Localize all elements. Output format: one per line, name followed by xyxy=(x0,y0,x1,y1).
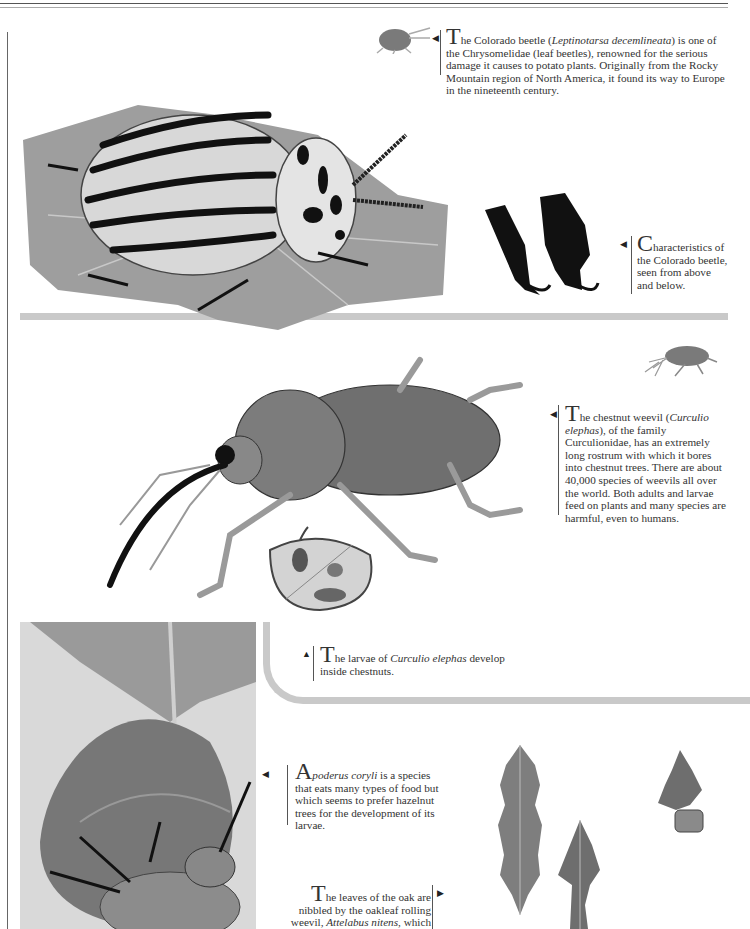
colorado-beetle-legs-illustration xyxy=(470,185,610,305)
caption-pointer-left: ◀ xyxy=(432,34,439,43)
drop-cap: T xyxy=(565,400,580,426)
caption-rule xyxy=(558,405,559,515)
chestnut-cross-section xyxy=(270,527,371,610)
chestnut-weevil-caption: The chestnut weevil (Curculio elephas), … xyxy=(565,404,730,524)
caption-pointer-left: ◀ xyxy=(620,240,627,249)
drop-cap: T xyxy=(320,641,335,667)
caption-rule xyxy=(440,30,441,75)
caption-rule xyxy=(313,646,314,681)
chestnut-weevil-silhouette-icon xyxy=(635,340,725,380)
caption-rule xyxy=(287,765,288,825)
gutter-line xyxy=(7,32,8,929)
drop-cap: T xyxy=(446,23,461,49)
caption-rule xyxy=(432,885,433,929)
colorado-legs-caption: Characteristics of the Colorado beetle, … xyxy=(637,234,729,291)
caption-rule xyxy=(631,236,632,294)
larvae-caption: The larvae of Curculio elephas develop i… xyxy=(320,645,520,677)
caption-pointer-left: ◀ xyxy=(262,770,269,779)
oak-weevil-caption: The leaves of the oak are nibbled by the… xyxy=(288,884,431,929)
drop-cap: A xyxy=(295,758,312,784)
colorado-beetle-silhouette-icon xyxy=(375,24,435,54)
top-rule-secondary xyxy=(0,7,728,8)
caption-pointer-left: ◀ xyxy=(550,410,557,419)
drop-cap: C xyxy=(637,230,653,256)
colorado-beetle-caption: The Colorado beetle (Leptinotarsa deceml… xyxy=(446,27,726,97)
colorado-beetle-illustration xyxy=(18,75,448,335)
drop-cap: T xyxy=(311,880,326,906)
apoderus-caption: Apoderus coryli is a species that eats m… xyxy=(295,762,445,832)
caption-pointer-up: ▲ xyxy=(302,650,311,659)
top-rule xyxy=(0,3,728,4)
caption-pointer-right: ▶ xyxy=(437,889,444,898)
oak-leaves-illustration xyxy=(480,745,728,929)
chestnut-weevil-illustration xyxy=(90,355,530,615)
apoderus-coryli-illustration xyxy=(20,622,256,929)
